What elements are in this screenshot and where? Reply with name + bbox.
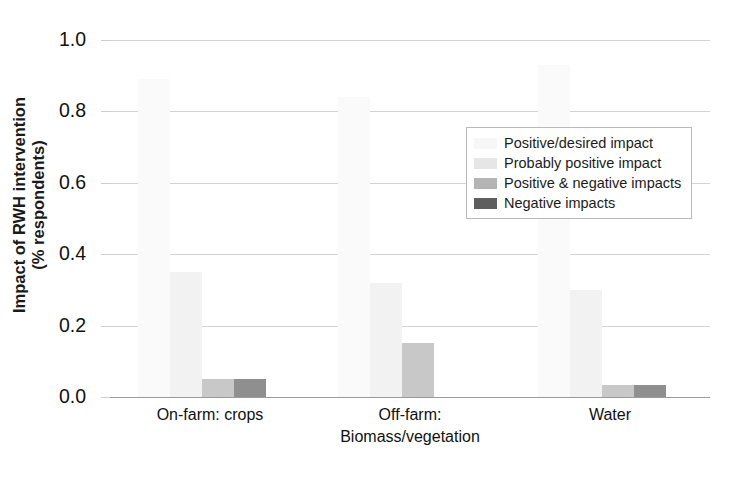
- legend-swatch-icon: [474, 158, 497, 169]
- y-tick-mark: [101, 326, 110, 327]
- x-category-label-line: Biomass/vegetation: [310, 426, 510, 448]
- bar: [402, 343, 434, 397]
- legend-item[interactable]: Positive/desired impact: [474, 133, 685, 153]
- gridline: [110, 254, 710, 255]
- bar: [338, 97, 370, 397]
- chart-figure: Impact of RWH intervention (% respondent…: [0, 0, 739, 483]
- legend-swatch-icon: [474, 198, 497, 209]
- legend-label: Positive/desired impact: [504, 136, 653, 151]
- x-axis-baseline: [110, 397, 710, 398]
- y-tick-mark: [101, 111, 110, 112]
- y-tick-label: 0.6: [0, 173, 86, 193]
- y-tick-mark: [101, 254, 110, 255]
- gridline: [110, 111, 710, 112]
- bar: [570, 290, 602, 397]
- legend-item[interactable]: Negative impacts: [474, 193, 685, 213]
- y-axis-tick-labels: 1.00.80.60.40.20.0: [0, 0, 100, 483]
- bar: [370, 283, 402, 397]
- bar: [170, 272, 202, 397]
- y-tick-mark: [101, 40, 110, 41]
- y-tick-label: 0.8: [0, 101, 86, 121]
- x-category-label: Off-farm:Biomass/vegetation: [310, 404, 510, 447]
- y-tick-label: 0.4: [0, 244, 86, 264]
- x-category-label-line: On-farm: crops: [110, 404, 310, 426]
- legend-item[interactable]: Probably positive impact: [474, 153, 685, 173]
- bar: [602, 385, 634, 397]
- legend-item[interactable]: Positive & negative impacts: [474, 173, 685, 193]
- y-tick-mark: [101, 397, 110, 398]
- y-tick-label: 0.0: [0, 387, 86, 407]
- bar: [634, 385, 666, 397]
- x-category-label: On-farm: crops: [110, 404, 310, 426]
- y-tick-label: 1.0: [0, 30, 86, 50]
- x-axis-category-labels: On-farm: cropsOff-farm:Biomass/vegetatio…: [110, 404, 710, 464]
- bar: [138, 79, 170, 397]
- legend-label: Positive & negative impacts: [504, 176, 681, 191]
- legend-swatch-icon: [474, 178, 497, 189]
- legend-label: Negative impacts: [504, 196, 615, 211]
- x-category-label-line: Off-farm:: [310, 404, 510, 426]
- x-category-label: Water: [510, 404, 710, 426]
- legend: Positive/desired impactProbably positive…: [466, 127, 692, 219]
- y-tick-label: 0.2: [0, 316, 86, 336]
- x-category-label-line: Water: [510, 404, 710, 426]
- bar: [538, 65, 570, 397]
- y-tick-mark: [101, 183, 110, 184]
- bar: [234, 379, 266, 397]
- legend-swatch-icon: [474, 138, 497, 149]
- bar: [202, 379, 234, 397]
- gridline: [110, 40, 710, 41]
- legend-label: Probably positive impact: [504, 156, 661, 171]
